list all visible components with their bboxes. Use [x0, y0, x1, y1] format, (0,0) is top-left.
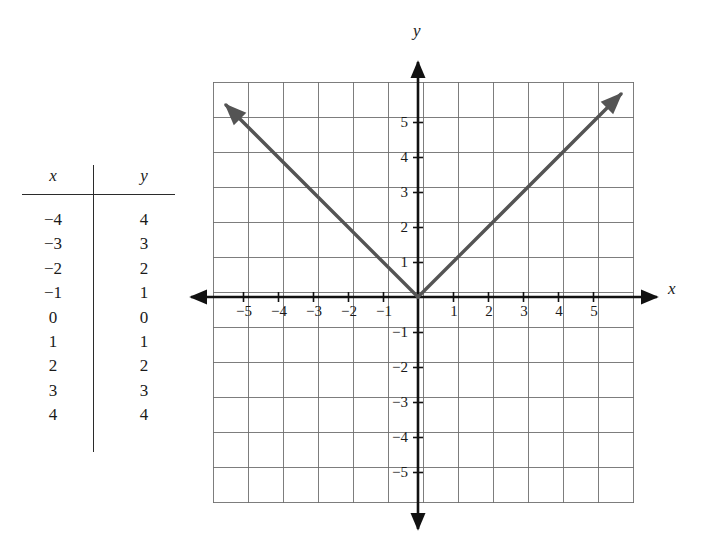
x-axis-label: x: [668, 280, 676, 298]
graph-svg: [0, 0, 701, 544]
figure-absolute-value-graph: x y −4 4 −3 3 −2 2 −1 1 0 0: [0, 0, 701, 544]
y-tick-label: −1: [380, 324, 408, 341]
x-tick-label: −5: [231, 303, 257, 320]
x-tick-label: −3: [301, 303, 327, 320]
x-tick-label: −4: [266, 303, 292, 320]
x-tick-label: −1: [371, 303, 397, 320]
x-tick-label: 2: [476, 303, 502, 320]
y-tick-label: −5: [380, 464, 408, 481]
x-tick-label: 3: [511, 303, 537, 320]
y-tick-label: 2: [386, 219, 408, 236]
axes: [191, 62, 657, 529]
curve-right-branch: [418, 94, 621, 297]
y-tick-label: 3: [386, 184, 408, 201]
x-tick-label: −2: [336, 303, 362, 320]
x-tick-label: 4: [546, 303, 572, 320]
x-tick-label: 5: [581, 303, 607, 320]
y-tick-label: 1: [386, 254, 408, 271]
coordinate-plane: y x −5 −4 −3 −2 −1 1 2 3 4 5 1 2 3 4 5 −…: [0, 0, 701, 544]
y-tick-label: −2: [380, 359, 408, 376]
y-axis-label: y: [413, 22, 421, 40]
y-tick-label: −3: [380, 394, 408, 411]
y-tick-label: −4: [380, 429, 408, 446]
x-tick-label: 1: [441, 303, 467, 320]
y-tick-label: 5: [386, 114, 408, 131]
y-tick-label: 4: [386, 149, 408, 166]
